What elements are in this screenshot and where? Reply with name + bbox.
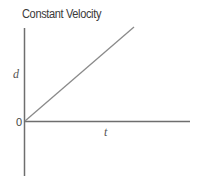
chart-canvas: d⃗ 0 t [0, 0, 199, 188]
origin-label: 0 [16, 116, 22, 128]
y-axis-label: d⃗ [13, 67, 28, 81]
x-axis-label: t [104, 125, 108, 139]
displacement-line [25, 27, 134, 121]
